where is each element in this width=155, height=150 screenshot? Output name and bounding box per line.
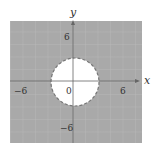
- graph-canvas: x y −6 6 6 −6 0: [0, 0, 155, 150]
- tick-label-x-neg6: −6: [14, 86, 28, 96]
- tick-label-y-neg6: −6: [60, 123, 74, 133]
- origin-label: 0: [66, 86, 72, 96]
- y-axis-label: y: [69, 6, 77, 19]
- x-axis-label: x: [144, 74, 151, 87]
- tick-label-y-pos6: 6: [64, 32, 70, 42]
- tick-label-x-pos6: 6: [120, 86, 126, 96]
